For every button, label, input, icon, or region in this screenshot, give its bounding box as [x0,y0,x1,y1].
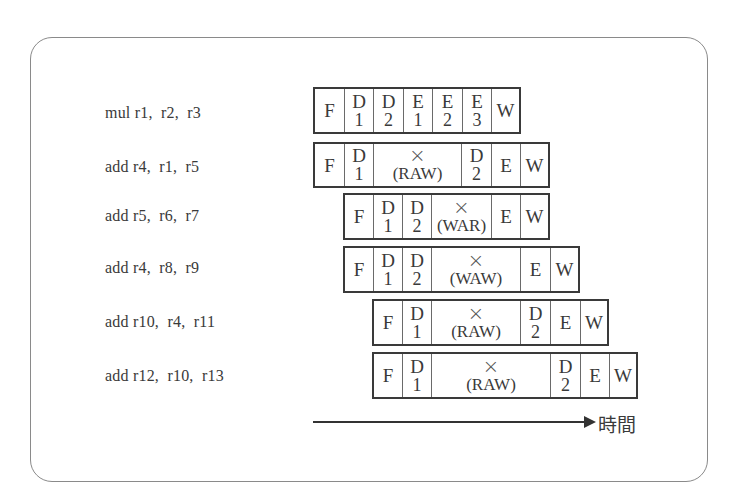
stage-e: E [492,195,521,238]
stall-raw: ×(RAW) [432,301,521,344]
instruction-label: add r4, r8, r9 [105,259,199,277]
pipeline-row: F D1 ×(RAW) D2 E W [313,142,550,188]
stage-w: W [610,354,636,397]
stall-war: ×(WAR) [432,195,492,238]
stage-f: F [374,301,403,344]
pipeline-row: F D1 ×(RAW) D2 E W [372,299,609,346]
stage-e: E [492,144,521,186]
instruction-label: add r4, r1, r5 [105,158,199,176]
pipeline-row: F D1 ×(RAW) D2 E W [372,352,638,399]
stage-d1: D1 [345,89,374,132]
stage-d1: D1 [403,301,432,344]
stage-f: F [374,354,403,397]
stage-e: E [551,301,581,344]
instruction-label: add r5, r6, r7 [105,207,199,225]
stall-raw: ×(RAW) [374,144,462,186]
stage-d2: D2 [462,144,492,186]
stage-f: F [315,89,345,132]
stage-f: F [345,195,374,238]
stage-e: E [521,248,551,291]
instruction-label: add r10, r4, r11 [105,313,215,331]
stage-d2: D2 [551,354,581,397]
stage-w: W [521,195,548,238]
stage-w: W [551,248,578,291]
stage-f: F [345,248,374,291]
instruction-label: mul r1, r2, r3 [105,104,201,122]
stage-d2: D2 [403,248,432,291]
time-axis-label: 時間 [598,410,636,437]
stage-d1: D1 [403,354,432,397]
stage-d1: D1 [374,248,403,291]
stall-raw: ×(RAW) [432,354,551,397]
pipeline-row: F D1 D2 E1 E2 E3 W [313,87,521,134]
stage-f: F [315,144,345,186]
pipeline-row: F D1 D2 ×(WAW) E W [343,246,580,293]
stage-e: E [581,354,610,397]
time-axis-line [313,421,585,423]
stage-d2: D2 [374,89,404,132]
stage-e2: E2 [433,89,463,132]
stage-e1: E1 [404,89,433,132]
stage-w: W [492,89,519,132]
pipeline-row: F D1 D2 ×(WAR) E W [343,193,550,240]
stage-w: W [521,144,548,186]
stage-w: W [581,301,607,344]
stall-waw: ×(WAW) [432,248,521,291]
stage-e3: E3 [463,89,492,132]
stage-d1: D1 [374,195,403,238]
arrow-right-icon [584,416,596,428]
stage-d2: D2 [403,195,432,238]
instruction-label: add r12, r10, r13 [105,367,224,385]
stage-d1: D1 [345,144,374,186]
stage-d2: D2 [521,301,551,344]
